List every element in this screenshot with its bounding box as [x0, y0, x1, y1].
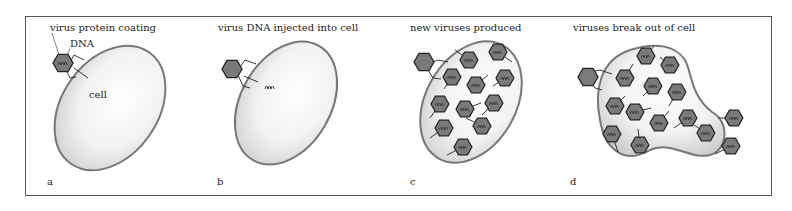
label-dna: DNA — [70, 38, 95, 49]
panel-a: virus protein coating DNA cell a — [32, 22, 189, 191]
panel-letter-a: a — [47, 176, 53, 187]
panel-letter-b: b — [217, 176, 223, 187]
cell — [32, 25, 189, 191]
panel-d-title: viruses break out of cell — [572, 22, 695, 33]
label-cell: cell — [89, 89, 107, 100]
panel-c: new viruses produced c — [400, 22, 543, 187]
cell — [400, 23, 543, 181]
panel-letter-c: c — [410, 176, 416, 187]
panel-d: viruses break out of cell d — [570, 22, 743, 187]
panel-c-title: new viruses produced — [410, 22, 522, 33]
panel-b-title: virus DNA injected into cell — [217, 22, 358, 33]
cell — [214, 23, 358, 182]
panel-letter-d: d — [570, 176, 577, 187]
virus-replication-diagram: virus protein coating DNA cell a virus D… — [0, 0, 792, 211]
label-virus-protein-coating: virus protein coating — [49, 22, 157, 33]
panel-b: virus DNA injected into cell b — [214, 22, 358, 187]
